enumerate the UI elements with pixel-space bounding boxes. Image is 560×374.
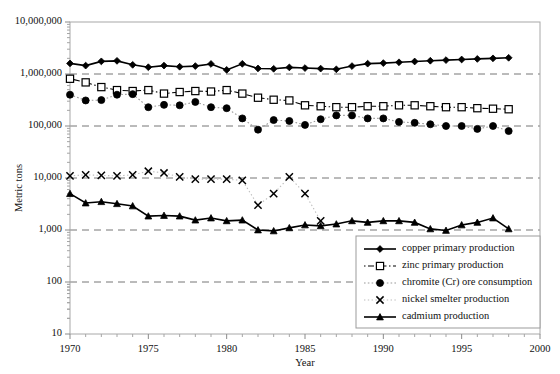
y-tick-label: 10,000,000 (15, 15, 62, 26)
data-point-marker (458, 104, 465, 111)
legend-label: zinc primary production (402, 259, 504, 270)
data-point-marker (286, 97, 293, 104)
y-tick-label: 1,000,000 (20, 67, 62, 78)
legend-label: cadmium production (402, 310, 490, 321)
data-point-marker (255, 126, 262, 133)
data-point-marker (458, 56, 465, 63)
data-point-marker (490, 55, 497, 62)
data-point-marker (427, 103, 434, 110)
data-series-group (66, 54, 512, 233)
data-point-marker (98, 83, 105, 90)
y-tick-label: 10 (52, 327, 63, 338)
data-point-marker (208, 61, 215, 68)
data-point-marker (270, 96, 277, 103)
x-tick-label: 1995 (451, 343, 472, 354)
data-point-marker (317, 116, 324, 123)
data-point-marker (270, 117, 277, 124)
data-point-marker (255, 65, 262, 72)
data-point-marker (317, 103, 324, 110)
data-point-marker (505, 128, 512, 135)
data-point-marker (474, 125, 481, 132)
data-point-marker (377, 280, 384, 287)
data-point-marker (333, 66, 340, 73)
data-point-marker (364, 103, 371, 110)
data-point-marker (396, 118, 403, 125)
data-point-marker (98, 58, 105, 65)
data-point-marker (411, 102, 418, 109)
data-point-marker (192, 176, 199, 183)
data-point-marker (145, 87, 152, 94)
chart-legend: copper primary productionzinc primary pr… (356, 236, 540, 328)
data-point-marker (427, 121, 434, 128)
x-tick-label: 1970 (60, 343, 81, 354)
data-point-marker (286, 117, 293, 124)
data-point-marker (114, 57, 121, 64)
data-point-marker (474, 105, 481, 112)
data-point-marker (129, 171, 136, 178)
data-point-marker (302, 65, 309, 72)
data-point-marker (207, 88, 214, 95)
data-point-marker (396, 59, 403, 66)
y-tick-label: 10,000 (33, 171, 62, 182)
data-point-marker (98, 97, 105, 104)
x-tick-label: 1985 (295, 343, 316, 354)
data-point-marker (286, 173, 293, 180)
data-point-marker (239, 60, 246, 67)
data-point-marker (443, 57, 450, 64)
data-point-marker (395, 102, 402, 109)
x-axis-tick-labels: 1970197519801985199019952000 (60, 343, 551, 354)
data-point-marker (301, 190, 308, 197)
series-cadmium-production (67, 190, 512, 234)
data-point-marker (176, 63, 183, 70)
data-point-marker (376, 262, 383, 269)
data-point-marker (223, 105, 230, 112)
data-point-marker (380, 60, 387, 67)
line-chart: 101001,00010,000100,0001,000,00010,000,0… (0, 0, 560, 374)
data-point-marker (411, 119, 418, 126)
data-point-marker (82, 171, 89, 178)
chart-container: 101001,00010,000100,0001,000,00010,000,0… (0, 0, 560, 374)
y-axis-title: Metric tons (13, 164, 24, 212)
data-point-marker (270, 65, 277, 72)
data-point-marker (505, 54, 512, 61)
data-point-marker (364, 115, 371, 122)
data-point-marker (458, 123, 465, 130)
x-tick-label: 1990 (373, 343, 394, 354)
data-point-marker (239, 115, 246, 122)
data-point-marker (161, 62, 168, 69)
data-point-marker (411, 58, 418, 65)
data-point-marker (364, 60, 371, 67)
data-point-marker (192, 98, 199, 105)
data-point-marker (317, 65, 324, 72)
data-point-marker (254, 202, 261, 209)
data-point-marker (82, 62, 89, 69)
data-point-marker (443, 123, 450, 130)
y-tick-label: 100,000 (28, 119, 62, 130)
data-point-marker (82, 97, 89, 104)
data-point-marker (490, 123, 497, 130)
data-point-marker (490, 215, 497, 221)
data-point-marker (302, 121, 309, 128)
data-point-marker (145, 168, 152, 175)
data-point-marker (474, 56, 481, 63)
data-point-marker (223, 66, 230, 73)
data-point-marker (192, 87, 199, 94)
data-point-marker (286, 64, 293, 71)
data-point-marker (442, 104, 449, 111)
data-point-marker (66, 75, 73, 82)
data-point-marker (192, 63, 199, 70)
data-point-marker (176, 88, 183, 95)
legend-label: nickel smelter production (402, 293, 510, 304)
data-point-marker (208, 104, 215, 111)
data-point-marker (176, 173, 183, 180)
data-point-marker (67, 91, 74, 98)
data-point-marker (239, 90, 246, 97)
y-tick-label: 1,000 (38, 223, 62, 234)
data-point-marker (254, 94, 261, 101)
x-axis-title: Year (295, 357, 315, 368)
x-tick-label: 1975 (138, 343, 159, 354)
legend-label: chromite (Cr) ore consumption (402, 276, 533, 288)
data-point-marker (489, 105, 496, 112)
data-point-marker (129, 91, 136, 98)
data-point-marker (380, 115, 387, 122)
